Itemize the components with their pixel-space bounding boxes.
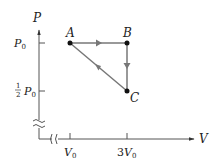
svg-text:P0: P0 xyxy=(13,37,26,51)
svg-text:3V0: 3V0 xyxy=(117,146,136,160)
v0-label: V0 xyxy=(64,146,76,160)
svg-text:P0: P0 xyxy=(23,85,36,99)
point-a xyxy=(68,41,73,46)
3v0-label: 3V0 xyxy=(117,146,136,160)
p-axis xyxy=(33,30,45,139)
v-axis-label: V xyxy=(199,132,209,146)
p0-label: P0 xyxy=(13,37,26,51)
point-c xyxy=(125,89,130,94)
arrow-right-icon xyxy=(96,40,102,47)
point-c-label: C xyxy=(130,91,139,105)
axis-break-icon xyxy=(33,125,45,128)
arrow-down-icon xyxy=(124,63,131,69)
half-p0-label: 1 2 P0 xyxy=(15,82,36,99)
point-b xyxy=(125,41,130,46)
svg-text:V0: V0 xyxy=(64,146,76,160)
svg-text:1: 1 xyxy=(16,82,20,90)
arrow-up-left-icon xyxy=(95,64,101,71)
svg-text:2: 2 xyxy=(16,91,20,99)
process-cycle xyxy=(70,40,131,92)
point-b-label: B xyxy=(122,26,132,40)
point-a-label: A xyxy=(65,26,75,40)
p-axis-label: P xyxy=(32,11,42,25)
axis-break-icon xyxy=(56,134,58,144)
v-axis xyxy=(39,134,194,144)
pv-diagram: P V P0 1 2 P0 V0 3V0 A B C xyxy=(0,0,219,166)
